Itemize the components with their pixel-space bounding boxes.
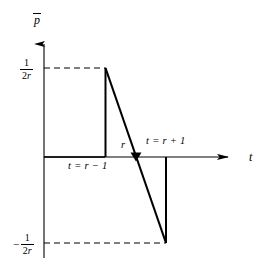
x-tick-label-right: t = r + 1 (146, 136, 186, 147)
x-axis-label: t (249, 151, 252, 163)
y-axis-label: p (33, 14, 41, 26)
fraction-positive: 1 2r (20, 58, 33, 81)
fraction-numerator: 1 (22, 58, 31, 69)
x-tick-label-middle: r (121, 140, 125, 151)
fraction-negative: 1 2r (21, 233, 34, 256)
minus-sign: − (13, 238, 19, 251)
figure-container: p t 1 2r − 1 2r t = r − 1 r t = r + 1 (0, 0, 268, 279)
fraction-denominator: 2r (21, 245, 34, 256)
fraction-denominator: 2r (20, 70, 33, 81)
denominator-symbol: r (27, 70, 31, 81)
x-tick-label-left: t = r − 1 (68, 161, 108, 172)
y-tick-label-positive: 1 2r (20, 58, 33, 81)
denominator-symbol: r (28, 245, 32, 256)
plot-svg (0, 0, 268, 279)
fraction-numerator: 1 (23, 233, 32, 244)
y-tick-label-negative: − 1 2r (13, 233, 34, 256)
y-axis-label-text: p (33, 14, 41, 26)
